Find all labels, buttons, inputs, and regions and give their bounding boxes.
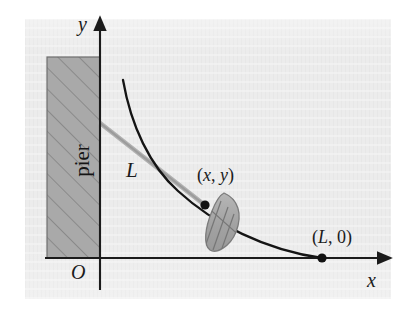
dock-point-label: (L, 0) [312,228,352,246]
rope-length-label: L [126,160,138,181]
rope-line [100,123,206,206]
diagram-svg [0,0,399,311]
pier-label: pier [72,131,93,191]
origin-label: O [71,262,85,282]
figure-root: y x O L (x, y) (L, 0) pier [0,0,399,311]
boat-point-close: ) [228,165,234,185]
boat-point-label: (x, y) [197,166,234,184]
dock-comma: , 0) [328,227,352,247]
point-boat-position [200,200,209,209]
y-axis-label: y [78,14,87,34]
dock-L: L [318,227,328,247]
point-dock-end [317,253,326,262]
boat-point-x: x [203,165,211,185]
x-axis-label: x [367,270,376,290]
boat-point-comma: , [211,165,220,185]
boat-point-y: y [220,165,228,185]
